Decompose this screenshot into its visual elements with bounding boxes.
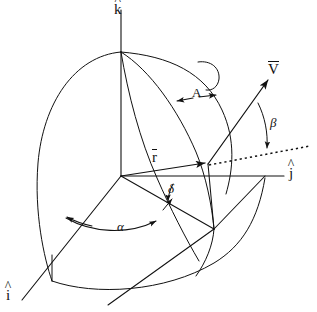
angle-label-alpha: α xyxy=(117,220,124,233)
angle-A-arrow-left xyxy=(177,98,193,101)
line-j-axis-to-foot xyxy=(214,176,265,229)
hat-accent-j: ^ xyxy=(288,158,294,172)
axis-label-j-hat: ^ j xyxy=(289,166,293,181)
line-foot-to-lower-left xyxy=(108,229,214,305)
hat-accent-i: ^ xyxy=(5,280,11,294)
overbar-v xyxy=(268,61,279,62)
diagram-canvas xyxy=(0,0,317,312)
angle-beta-arc xyxy=(258,103,267,148)
meridian-outer-right xyxy=(121,52,232,194)
meridian-left-of-point xyxy=(121,52,199,261)
vector-r-arrow xyxy=(121,163,205,176)
spherical-coordinate-diagram: ^ k ^ j ^ i r V A β δ α xyxy=(0,0,317,312)
vector-label-v-bar: V xyxy=(268,62,279,77)
vector-v-arrow xyxy=(208,80,268,164)
angle-label-A: A xyxy=(192,86,201,99)
angle-label-beta: β xyxy=(270,116,276,129)
angle-label-delta: δ xyxy=(168,182,174,195)
axis-label-k-hat: ^ k xyxy=(114,2,122,17)
vector-label-r-text: r xyxy=(152,149,157,165)
equatorial-front-arc xyxy=(52,178,265,290)
vector-label-v-text: V xyxy=(268,61,279,77)
overbar-r xyxy=(152,149,157,150)
axis-label-i-hat: ^ i xyxy=(6,288,10,303)
vector-label-r-bar: r xyxy=(152,150,157,165)
meridian-outer-left xyxy=(37,52,121,281)
dotted-reference-line xyxy=(209,146,310,165)
hat-accent-k: ^ xyxy=(115,0,121,8)
